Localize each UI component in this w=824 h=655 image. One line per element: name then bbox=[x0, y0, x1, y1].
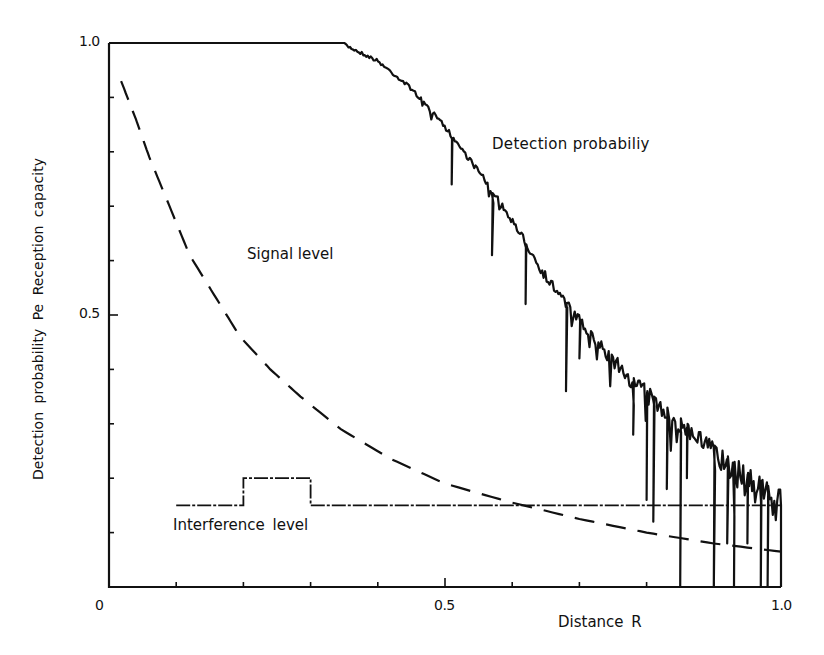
y-tick-label-1: 1.0 bbox=[79, 33, 100, 49]
x-axis-label: Distance R bbox=[558, 613, 642, 631]
y-axis-label: Detection probability Pe Reception capac… bbox=[30, 158, 46, 480]
annotation-signal-level: Signal level bbox=[247, 245, 334, 263]
x-tick-label-1: 1.0 bbox=[771, 597, 792, 613]
interference-level-line bbox=[176, 478, 781, 505]
annotation-detection-probability: Detection probabiliy bbox=[492, 135, 650, 153]
annotation-interference-level: Interference level bbox=[173, 516, 308, 534]
chart-canvas bbox=[0, 0, 824, 655]
x-tick-label-0: 0 bbox=[95, 597, 103, 613]
x-tick-label-05: 0.5 bbox=[434, 597, 455, 613]
y-tick-label-05: 0.5 bbox=[79, 305, 100, 321]
series-layer bbox=[109, 43, 781, 587]
